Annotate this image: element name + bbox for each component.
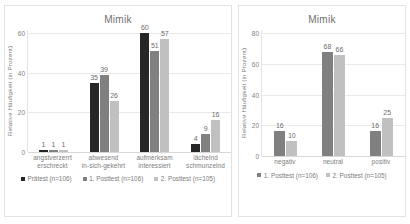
right-baseline [262,156,405,157]
bar-holder: 16 [211,30,220,152]
legend-label: 1. Posttest (n=106) [89,175,143,182]
x-label-positiv: positiv [357,158,405,166]
right-chart-title: Mimik [239,6,405,27]
x-label-angstverzerrt: angstverzerrt erschreckt [27,154,78,169]
legend-swatch-icon [83,177,87,181]
bar-holder: 39 [100,30,109,152]
left-x-labels: angstverzerrt erschreckt abwesend in-sic… [27,154,231,169]
bar-value-label: 1 [51,141,55,148]
x-label-laechelnd: lächelnd schmunzelnd [180,154,231,169]
bar-posttest-2[interactable] [286,141,297,156]
bar-value-label: 16 [212,111,220,118]
bar-group-aufmerksam: 60 51 57 [130,30,181,152]
right-y-tick-40: 40 [252,91,259,98]
right-y-tick-column: 80 60 40 20 0 [248,30,261,156]
chart-panel-left: Mimik Relative Häufigkeit (in Prozent) 6… [4,5,232,217]
bar-value-label: 1 [61,141,65,148]
bar-praetest[interactable] [140,33,149,152]
right-y-tick-60: 60 [252,60,259,67]
legend-item-praetest[interactable]: Prätest (n=106) [21,175,72,182]
bar-posttest-2[interactable] [211,120,220,152]
legend-swatch-icon [257,173,261,177]
bar-posttest-1[interactable] [150,51,159,152]
right-x-labels: negativ neutral positiv [261,158,405,166]
x-label-line1: abwesend [78,154,129,162]
x-label-line1: lächelnd [180,154,231,162]
bar-posttest-1[interactable] [370,131,381,156]
bar-posttest-1[interactable] [49,150,58,152]
legend-label: 2. Posttest (n=105) [161,175,215,182]
legend-label: Prätest (n=106) [27,175,71,182]
bar-posttest-1[interactable] [322,52,333,157]
bar-holder: 26 [110,30,119,152]
bar-value-label: 66 [336,46,344,53]
right-bar-groups: 16 10 68 [262,30,405,156]
right-plot: 16 10 68 [261,30,405,156]
x-label-line2: in-sich-gekehrt [78,162,129,170]
bar-posttest-2[interactable] [160,39,169,152]
x-label-line1: negativ [261,158,309,166]
bar-value-label: 9 [204,125,208,132]
bar-group-angstverzerrt: 1 1 1 [28,30,79,152]
figure-container: Mimik Relative Häufigkeit (in Prozent) 6… [0,0,410,224]
x-label-line2: erschreckt [27,162,78,170]
right-legend: 1. Posttest (n=106) 2. Posttest (n=105) [239,172,405,179]
chart-panel-right: Mimik Relative Häufigkeit (in Prozent) 8… [238,5,406,217]
bar-posttest-1[interactable] [274,131,285,156]
bar-group-negativ: 16 10 [262,30,310,156]
x-label-line1: neutral [309,158,357,166]
bar-posttest-2[interactable] [59,150,68,152]
bar-holder: 35 [90,30,99,152]
bar-value-label: 39 [100,66,108,73]
left-plot-area: Relative Häufigkeit (in Prozent) 60 40 2… [5,30,231,152]
x-label-line1: angstverzerrt [27,154,78,162]
bar-holder: 60 [140,30,149,152]
bar-posttest-2[interactable] [110,101,119,152]
left-bar-groups: 1 1 1 [28,30,231,152]
bar-holder: 1 [49,30,58,152]
bar-posttest-2[interactable] [382,118,393,156]
bar-value-label: 51 [151,42,159,49]
bar-posttest-2[interactable] [334,55,345,157]
bar-holder: 9 [201,30,210,152]
bar-holder: 10 [286,30,297,156]
bar-value-label: 10 [288,132,296,139]
left-y-tick-column: 60 40 20 0 [14,30,27,152]
legend-item-posttest-1[interactable]: 1. Posttest (n=106) [83,175,144,182]
x-label-line2: interessiert [129,162,180,170]
bar-holder: 25 [382,30,393,156]
bar-holder: 16 [370,30,381,156]
right-y-tick-20: 20 [252,122,259,129]
left-legend: Prätest (n=106) 1. Posttest (n=106) 2. P… [5,175,231,182]
bar-group-neutral: 68 66 [310,30,358,156]
bar-holder: 51 [150,30,159,152]
bar-value-label: 16 [371,122,379,129]
bar-holder: 57 [160,30,169,152]
legend-item-posttest-2[interactable]: 2. Posttest (n=105) [154,175,215,182]
bar-holder: 1 [39,30,48,152]
bar-value-label: 4 [194,135,198,142]
x-label-line1: positiv [357,158,405,166]
bar-value-label: 25 [383,109,391,116]
bar-praetest[interactable] [39,150,48,152]
bar-holder: 16 [274,30,285,156]
bar-value-label: 35 [90,74,98,81]
bar-posttest-1[interactable] [100,75,109,152]
legend-item-posttest-1[interactable]: 1. Posttest (n=106) [257,172,318,179]
x-label-negativ: negativ [261,158,309,166]
left-baseline [28,152,231,153]
left-y-axis-label: Relative Häufigkeit (in Prozent) [5,30,14,152]
bar-value-label: 16 [276,122,284,129]
left-x-axis: angstverzerrt erschreckt abwesend in-sic… [5,154,231,169]
bar-praetest[interactable] [90,83,99,152]
legend-label: 2. Posttest (n=105) [333,172,387,179]
legend-item-posttest-2[interactable]: 2. Posttest (n=105) [326,172,387,179]
left-y-tick-40: 40 [18,69,25,76]
legend-swatch-icon [21,177,25,181]
bar-praetest[interactable] [191,144,200,152]
bar-group-positiv: 16 25 [357,30,405,156]
bar-holder: 1 [59,30,68,152]
bar-holder: 66 [334,30,345,156]
bar-group-laechelnd: 4 9 16 [180,30,231,152]
bar-posttest-1[interactable] [201,134,210,152]
